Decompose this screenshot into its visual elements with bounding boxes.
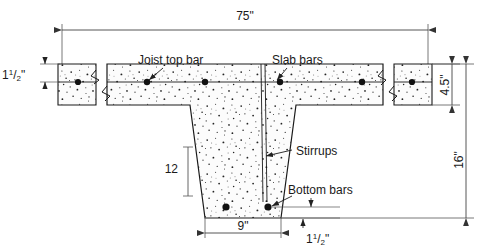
top-cover-unit: " [21,68,25,82]
slab-bar-dot [359,79,365,85]
slab-thickness-label: 4.5" [438,75,452,96]
stirrups-label: Stirrups [296,144,337,158]
bottom-cover-label: 11/2" [306,232,329,247]
slab-bars-label: Slab bars [272,53,323,67]
bottom-bar-dot-left [222,203,229,210]
top-cover-label: 11/2" [2,68,25,83]
tbeam-cross-section-drawing: 75" 11/2" [0,0,478,252]
total-depth-label: 16" [452,151,466,169]
diagram-canvas: 75" 11/2" [0,0,478,252]
rebar-dot [75,79,81,85]
bottom-width-label: 9" [238,219,249,233]
bottom-bar-dot-right [264,203,271,210]
slab-bar-dot [202,79,208,85]
stem-height-label: 12 [165,162,179,176]
right-slab-segment [389,64,432,105]
left-slab-segment [58,64,99,105]
overall-width-label: 75" [236,9,254,23]
bottom-cover-unit: " [325,232,329,246]
rebar-dot [409,79,415,85]
bottom-bars-label: Bottom bars [288,183,353,197]
joist-top-bar-label: Joist top bar [138,53,203,67]
